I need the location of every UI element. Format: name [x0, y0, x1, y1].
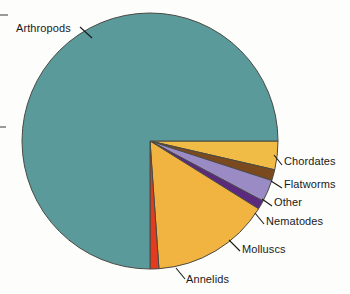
leader-line-nematodes — [255, 213, 264, 224]
leader-line-molluscs — [229, 240, 240, 251]
pie-label-other: Other — [274, 196, 302, 208]
pie-label-annelids: Annelids — [186, 273, 229, 285]
scan-artifact-tick-middle — [0, 126, 6, 128]
pie-label-molluscs: Molluscs — [242, 243, 286, 255]
pie-label-arthropods: Arthropods — [16, 22, 71, 34]
pie-label-nematodes: Nematodes — [266, 215, 323, 227]
pie-chart-figure: Arthropods Chordates Flatworms Other Nem… — [0, 0, 350, 294]
leader-line-other — [262, 199, 272, 206]
pie-slice-group — [22, 13, 278, 269]
pie-label-chordates: Chordates — [284, 155, 336, 167]
pie-chart-canvas — [0, 0, 350, 294]
scan-artifact-tick-top — [0, 14, 8, 16]
leader-line-annelids — [176, 268, 185, 279]
leader-line-flatworms — [271, 181, 282, 188]
pie-label-flatworms: Flatworms — [284, 178, 336, 190]
